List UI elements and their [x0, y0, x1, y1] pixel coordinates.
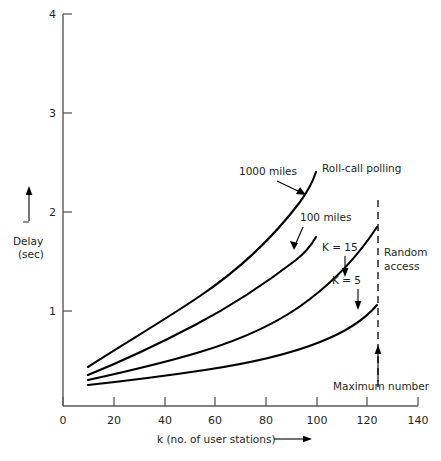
label-roll-call-polling: Roll-call polling [322, 162, 401, 174]
label-random-access-line1: Random [384, 246, 427, 258]
label-maximum-number: Maximum number [333, 380, 430, 392]
leader-arrow-maximum-number-icon [375, 345, 382, 354]
x-axis-title: k (no. of user stations) [157, 433, 275, 445]
y-tick-label-2: 2 [49, 206, 56, 219]
y-axis-title-line1: Delay [13, 235, 43, 247]
leader-100-miles [296, 227, 303, 243]
x-tick-label-40: 40 [158, 414, 172, 427]
chart-svg: 4 3 2 1 0 20 40 60 80 100 120 140 Delay … [0, 0, 441, 461]
x-tick-label-100: 100 [307, 414, 328, 427]
x-tick-label-140: 140 [408, 414, 429, 427]
leader-arrow-k-5-icon [355, 301, 362, 310]
label-k-15: K = 15 [322, 241, 358, 253]
label-100-miles: 100 miles [300, 211, 351, 223]
x-tick-labels: 0 20 40 60 80 100 120 140 [60, 414, 429, 427]
label-k-5: K = 5 [332, 274, 361, 286]
annotation-maximum-number: Maximum number [333, 345, 430, 392]
x-tick-label-60: 60 [208, 414, 222, 427]
y-tick-label-3: 3 [49, 107, 56, 120]
axis-group [63, 14, 418, 406]
x-tick-label-80: 80 [259, 414, 273, 427]
y-axis-title-line2: (sec) [18, 248, 44, 260]
x-tick-label-0: 0 [60, 414, 67, 427]
x-tick-label-120: 120 [357, 414, 378, 427]
y-axis-title-group: Delay (sec) [13, 186, 44, 260]
annotation-1000-miles: 1000 miles [239, 165, 306, 195]
label-1000-miles: 1000 miles [239, 165, 297, 177]
leader-1000-miles [277, 181, 300, 192]
y-tick-label-1: 1 [49, 305, 56, 318]
x-axis-arrow-head-icon [303, 436, 312, 442]
label-random-access-line2: access [384, 260, 419, 272]
annotation-random-access: Random access [384, 246, 427, 272]
y-tick-labels: 4 3 2 1 [49, 8, 56, 318]
x-tick-label-20: 20 [107, 414, 121, 427]
curve-k-5 [88, 305, 377, 385]
annotation-k-5: K = 5 [332, 274, 361, 310]
y-axis-arrow-head-icon [26, 186, 33, 195]
y-tick-label-4: 4 [49, 8, 56, 21]
x-axis-title-group: k (no. of user stations) [157, 433, 312, 445]
delay-vs-user-stations-chart: 4 3 2 1 0 20 40 60 80 100 120 140 Delay … [0, 0, 441, 461]
